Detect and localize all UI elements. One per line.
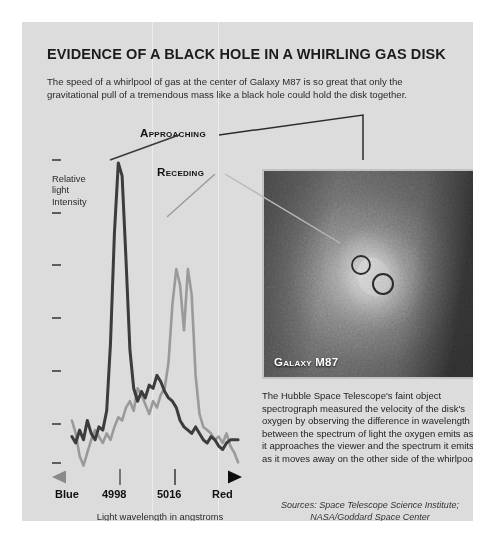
x-axis-caption: Light wavelength in angstroms: [60, 511, 260, 521]
sources: Sources: Space Telescope Science Institu…: [262, 500, 473, 521]
body-text: The Hubble Space Telescope's faint objec…: [262, 390, 473, 466]
galaxy-image: Galaxy M87: [262, 169, 473, 379]
spectrum-svg: [30, 142, 245, 482]
x-axis-label-blue: Blue: [55, 488, 79, 500]
galaxy-image-svg: [264, 171, 473, 377]
x-axis-tick-5016: 5016: [157, 488, 181, 500]
spectrum-plot: [30, 142, 245, 482]
callout-approaching: Approaching: [140, 126, 206, 139]
spectrum-chart: Relative light Intensity: [30, 142, 245, 482]
sources-line2: NASA/Goddard Space Center: [262, 512, 473, 521]
wavelength-axis-arrow: [52, 468, 242, 486]
galaxy-image-caption: Galaxy M87: [274, 356, 338, 368]
infographic-panel: EVIDENCE OF A BLACK HOLE IN A WHIRLING G…: [22, 22, 473, 521]
callout-receding: Receding: [157, 165, 204, 178]
page-title: EVIDENCE OF A BLACK HOLE IN A WHIRLING G…: [47, 46, 447, 62]
x-axis-tick-4998: 4998: [102, 488, 126, 500]
sources-line1: Sources: Space Telescope Science Institu…: [262, 500, 473, 512]
deck-text: The speed of a whirlpool of gas at the c…: [47, 75, 437, 102]
x-axis-label-red: Red: [212, 488, 233, 500]
